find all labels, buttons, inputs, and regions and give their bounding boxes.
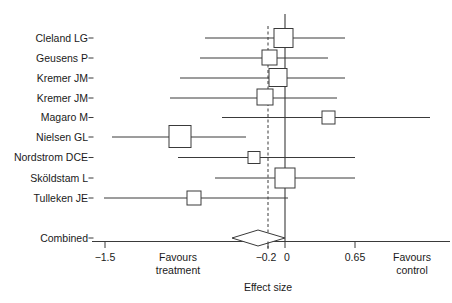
effect-marker-box: [274, 29, 293, 48]
study-row: Tulleken JE: [34, 191, 288, 205]
study-row: Nordstrom DCE: [14, 151, 355, 164]
favours-treatment-line1: Favours: [159, 251, 197, 263]
favours-treatment-line2: treatment: [156, 264, 200, 276]
effect-marker-box: [248, 152, 260, 164]
x-tick-label: −0.2: [256, 251, 277, 263]
effect-marker-box: [269, 69, 287, 87]
forest-plot-figure: Cleland LG Geusens P Kremer JM Kremer JM: [0, 0, 452, 303]
study-rows: Cleland LG Geusens P Kremer JM Kremer JM: [14, 29, 430, 206]
study-label: Tulleken JE: [34, 192, 88, 204]
pooled-effect-diamond: [232, 230, 285, 246]
combined-label: Combined: [40, 232, 88, 244]
study-label: Nielsen GL: [36, 131, 88, 143]
study-row: Cleland LG: [35, 29, 345, 48]
x-axis-ticks: [105, 242, 355, 249]
study-label: Magaro M: [41, 111, 88, 123]
study-row: Sköldstam L: [30, 168, 355, 188]
study-row: Geusens P: [36, 50, 328, 65]
effect-marker-box: [275, 168, 295, 188]
x-axis-title: Effect size: [244, 281, 292, 293]
effect-marker-box: [262, 50, 277, 65]
x-tick-label: 0: [284, 251, 290, 263]
effect-marker-box: [187, 191, 201, 205]
study-label: Cleland LG: [35, 32, 88, 44]
favours-treatment-annotation: Favours treatment: [156, 251, 200, 276]
study-label: Kremer JM: [37, 72, 88, 84]
favours-control-line2: control: [396, 264, 428, 276]
study-label: Geusens P: [36, 52, 88, 64]
x-tick-label: −1.5: [95, 251, 116, 263]
study-row: Magaro M: [41, 111, 430, 124]
effect-marker-box: [257, 89, 273, 105]
study-row: Kremer JM: [37, 69, 345, 87]
study-row: Nielsen GL: [36, 126, 246, 148]
combined-row: Combined: [40, 230, 285, 246]
effect-marker-box: [169, 126, 191, 148]
effect-marker-box: [322, 111, 335, 124]
study-label: Kremer JM: [37, 92, 88, 104]
favours-control-annotation: Favours control: [393, 251, 431, 276]
study-label: Sköldstam L: [30, 172, 88, 184]
x-axis-tick-labels: −1.5 −0.2 0 0.65: [95, 251, 366, 263]
study-row: Kremer JM: [37, 89, 337, 105]
favours-control-line1: Favours: [393, 251, 431, 263]
study-label: Nordstrom DCE: [14, 151, 88, 163]
x-tick-label: 0.65: [345, 251, 366, 263]
